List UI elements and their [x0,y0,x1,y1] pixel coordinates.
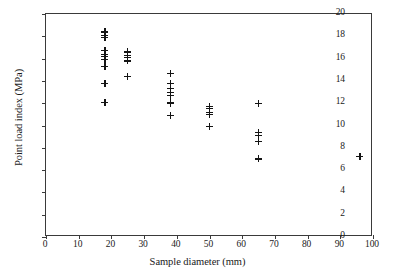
data-point [255,155,262,162]
data-point [101,99,108,106]
x-tick-label: 90 [326,240,352,250]
x-tick-label: 80 [294,240,320,250]
data-point [356,153,363,160]
x-tick-label: 60 [228,240,254,250]
y-tick [42,148,46,149]
x-tick-label: 20 [97,240,123,250]
x-tick-label: 50 [196,240,222,250]
y-tick-label: 6 [319,164,345,174]
y-tick-label: 20 [319,8,345,18]
data-point [255,100,262,107]
y-tick [42,215,46,216]
data-point [101,63,108,70]
x-tick-label: 40 [163,240,189,250]
y-tick [42,36,46,37]
x-tick-label: 30 [130,240,156,250]
y-tick [42,14,46,15]
data-point [167,70,174,77]
data-point [101,34,108,41]
x-axis-title: Sample diameter (mm) [0,256,395,267]
scatter-chart-figure: Point load index (MPa) Sample diameter (… [0,0,395,278]
data-point [255,138,262,145]
data-point [167,112,174,119]
x-tick-label: 70 [261,240,287,250]
y-tick [42,81,46,82]
y-axis-title: Point load index (MPa) [13,48,24,188]
y-tick-label: 4 [319,186,345,196]
data-point [124,73,131,80]
data-point [206,123,213,130]
y-tick [42,192,46,193]
y-tick-label: 16 [319,53,345,63]
y-tick-label: 14 [319,75,345,85]
y-tick-label: 2 [319,209,345,219]
x-tick-label: 100 [359,240,385,250]
y-tick-label: 18 [319,30,345,40]
y-tick-label: 8 [319,142,345,152]
data-point [124,57,131,64]
x-tick-label: 10 [65,240,91,250]
x-tick-label: 0 [32,240,58,250]
y-tick [42,103,46,104]
data-point [167,100,174,107]
y-tick-label: 10 [319,120,345,130]
data-point [101,80,108,87]
y-tick [42,170,46,171]
y-tick [42,59,46,60]
y-tick-label: 12 [319,97,345,107]
y-tick [42,126,46,127]
data-point [206,111,213,118]
